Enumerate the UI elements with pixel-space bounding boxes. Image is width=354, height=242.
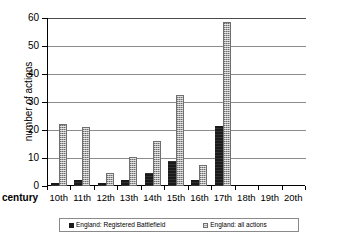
- x-axis-label-15th: 15th: [164, 191, 187, 205]
- chart-legend: England: Registered Battlefield England:…: [59, 218, 299, 232]
- x-axis-tick-mark: [235, 186, 236, 190]
- x-axis-tick-mark: [117, 186, 118, 190]
- bar-group-20th: [282, 18, 305, 186]
- x-axis-label-13th: 13th: [117, 191, 140, 205]
- x-axis-label-19th: 19th: [258, 191, 281, 205]
- bar-group-17th: [211, 18, 234, 186]
- bar-group-10th: [47, 18, 70, 186]
- y-axis-tick-label: 0: [9, 182, 39, 190]
- chart-figure: number of actions 0102030405060 century …: [0, 0, 354, 242]
- bar-12th-series-2: [106, 173, 114, 186]
- bar-group-15th: [164, 18, 187, 186]
- x-axis-tick-mark: [188, 186, 189, 190]
- bar-17th-series-1: [215, 126, 223, 186]
- bar-14th-series-2: [153, 141, 161, 186]
- legend-label-registered-battlefield: England: Registered Battlefield: [76, 221, 165, 229]
- x-axis-labels: 10th11th12th13th14th15th16th17th18th19th…: [47, 191, 305, 205]
- bar-group-16th: [188, 18, 211, 186]
- bar-group-18th: [235, 18, 258, 186]
- x-axis-tick-mark: [305, 186, 306, 190]
- x-axis-tick-mark: [258, 186, 259, 190]
- y-axis-tick-label: 20: [9, 126, 39, 134]
- bar-17th-series-2: [223, 22, 231, 186]
- x-axis-label-17th: 17th: [211, 191, 234, 205]
- bar-group-13th: [117, 18, 140, 186]
- bar-14th-series-1: [145, 173, 153, 186]
- legend-swatch-dark-icon: [69, 223, 74, 228]
- x-axis-label-12th: 12th: [94, 191, 117, 205]
- x-axis-tick-mark: [141, 186, 142, 190]
- x-axis-tick-mark: [164, 186, 165, 190]
- x-axis-label-10th: 10th: [47, 191, 70, 205]
- y-axis-tick-label: 30: [9, 98, 39, 106]
- x-axis-tick-mark: [47, 186, 48, 190]
- legend-label-all-actions: England: all actions: [210, 221, 266, 229]
- x-axis-label-20th: 20th: [282, 191, 305, 205]
- bar-13th-series-2: [129, 157, 137, 186]
- x-axis-tick-mark: [211, 186, 212, 190]
- y-axis-tick-label: 60: [9, 14, 39, 22]
- bar-11th-series-2: [82, 127, 90, 186]
- legend-item-registered-battlefield: England: Registered Battlefield: [69, 221, 165, 229]
- bar-group-19th: [258, 18, 281, 186]
- bar-15th-series-2: [176, 95, 184, 186]
- bar-group-12th: [94, 18, 117, 186]
- bar-10th-series-2: [59, 124, 67, 186]
- x-axis-tick-mark: [70, 186, 71, 190]
- x-axis-tick-mark: [94, 186, 95, 190]
- x-axis-tick-mark: [282, 186, 283, 190]
- bar-16th-series-2: [199, 165, 207, 186]
- bar-group-11th: [70, 18, 93, 186]
- y-axis-tick-label: 10: [9, 154, 39, 162]
- x-axis-label-11th: 11th: [70, 191, 93, 205]
- legend-item-all-actions: England: all actions: [203, 221, 266, 229]
- bar-15th-series-1: [168, 161, 176, 186]
- y-axis-tick-label: 50: [9, 42, 39, 50]
- x-axis-label-14th: 14th: [141, 191, 164, 205]
- x-axis-label-16th: 16th: [188, 191, 211, 205]
- x-axis-label-18th: 18th: [235, 191, 258, 205]
- legend-swatch-grey-icon: [203, 223, 208, 228]
- bar-columns: [47, 18, 305, 186]
- y-axis-tick-label: 40: [9, 70, 39, 78]
- x-axis-title: century: [2, 191, 46, 205]
- bar-group-14th: [141, 18, 164, 186]
